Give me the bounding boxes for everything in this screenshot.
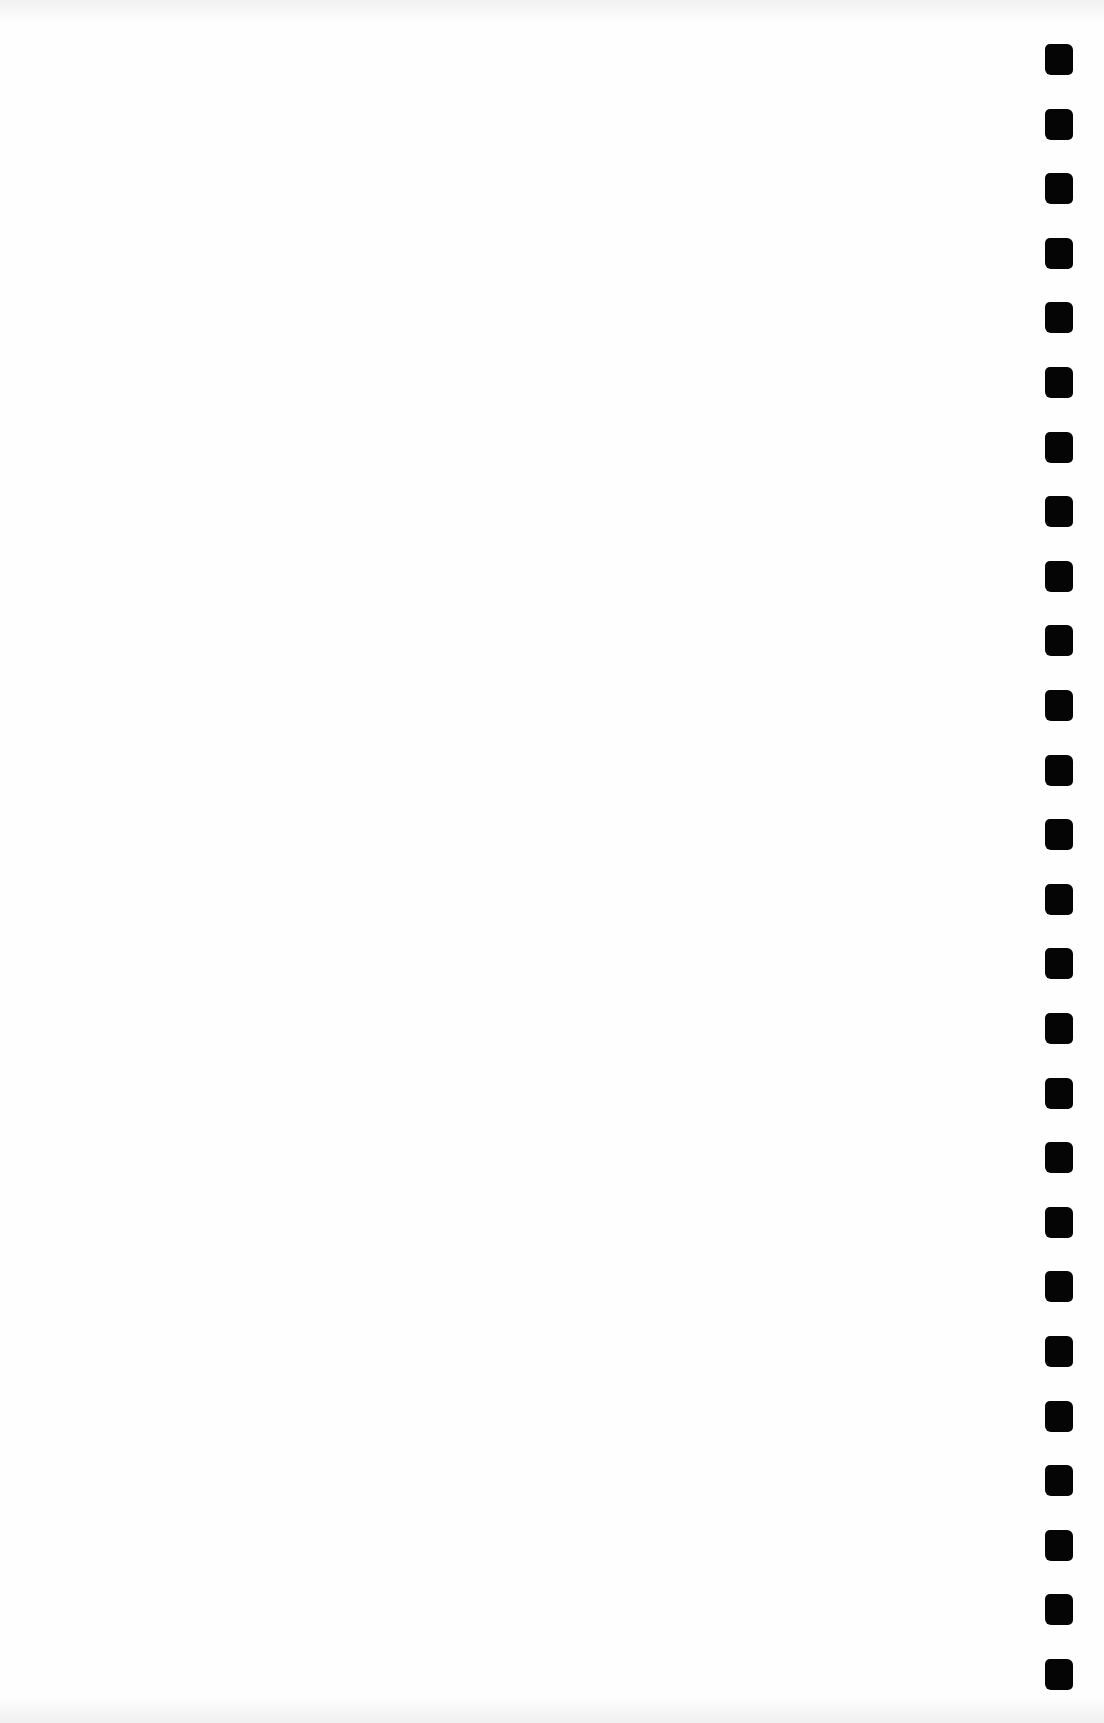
binding-hole (1045, 1336, 1073, 1367)
binding-holes-column (1045, 0, 1075, 1723)
binding-hole (1045, 1659, 1073, 1690)
binding-hole (1045, 948, 1073, 979)
binding-hole (1045, 238, 1073, 269)
binding-hole (1045, 173, 1073, 204)
binding-hole (1045, 44, 1073, 75)
binding-hole (1045, 496, 1073, 527)
binding-hole (1045, 1013, 1073, 1044)
binding-hole (1045, 1207, 1073, 1238)
binding-hole (1045, 884, 1073, 915)
binding-hole (1045, 367, 1073, 398)
binding-hole (1045, 1142, 1073, 1173)
binding-hole (1045, 1401, 1073, 1432)
binding-hole (1045, 690, 1073, 721)
binding-hole (1045, 1078, 1073, 1109)
binding-hole (1045, 561, 1073, 592)
binding-hole (1045, 625, 1073, 656)
binding-hole (1045, 819, 1073, 850)
binding-hole (1045, 302, 1073, 333)
binding-hole (1045, 1530, 1073, 1561)
binding-hole (1045, 432, 1073, 463)
scan-edge-shadow-bottom (0, 1697, 1104, 1723)
binding-hole (1045, 1594, 1073, 1625)
binding-hole (1045, 1465, 1073, 1496)
binding-hole (1045, 755, 1073, 786)
binding-hole (1045, 109, 1073, 140)
binding-hole (1045, 1271, 1073, 1302)
scan-edge-shadow-top (0, 0, 1104, 22)
blank-page (0, 0, 1104, 1723)
